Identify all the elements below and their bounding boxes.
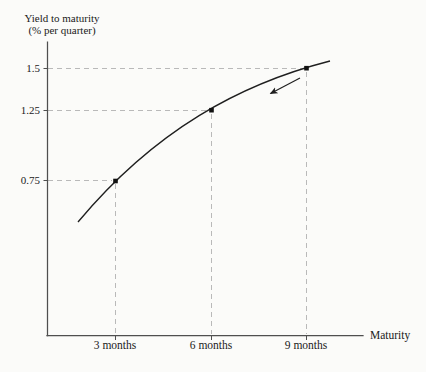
y-axis-title-line1: Yield to maturity — [22, 12, 102, 24]
chart-canvas — [0, 0, 426, 372]
data-point-6-months — [209, 108, 214, 113]
shift-arrow-icon — [271, 78, 301, 94]
data-point-3-months — [113, 179, 118, 184]
y-axis-title-line2: (% per quarter) — [22, 24, 102, 36]
y-tick-label-1.25: 1.25 — [6, 104, 40, 116]
x-tick-label-3-months: 3 months — [75, 339, 155, 352]
yield-curve-figure: Yield to maturity (% per quarter) 1.5 1.… — [0, 0, 426, 372]
data-point-9-months — [304, 66, 309, 71]
y-tick-label-1.5: 1.5 — [6, 62, 40, 74]
x-tick-label-6-months: 6 months — [171, 339, 251, 352]
x-axis-title: Maturity — [370, 329, 410, 342]
x-tick-label-9-months: 9 months — [266, 339, 346, 352]
y-axis-title: Yield to maturity (% per quarter) — [22, 12, 102, 36]
y-tick-label-0.75: 0.75 — [6, 174, 40, 186]
